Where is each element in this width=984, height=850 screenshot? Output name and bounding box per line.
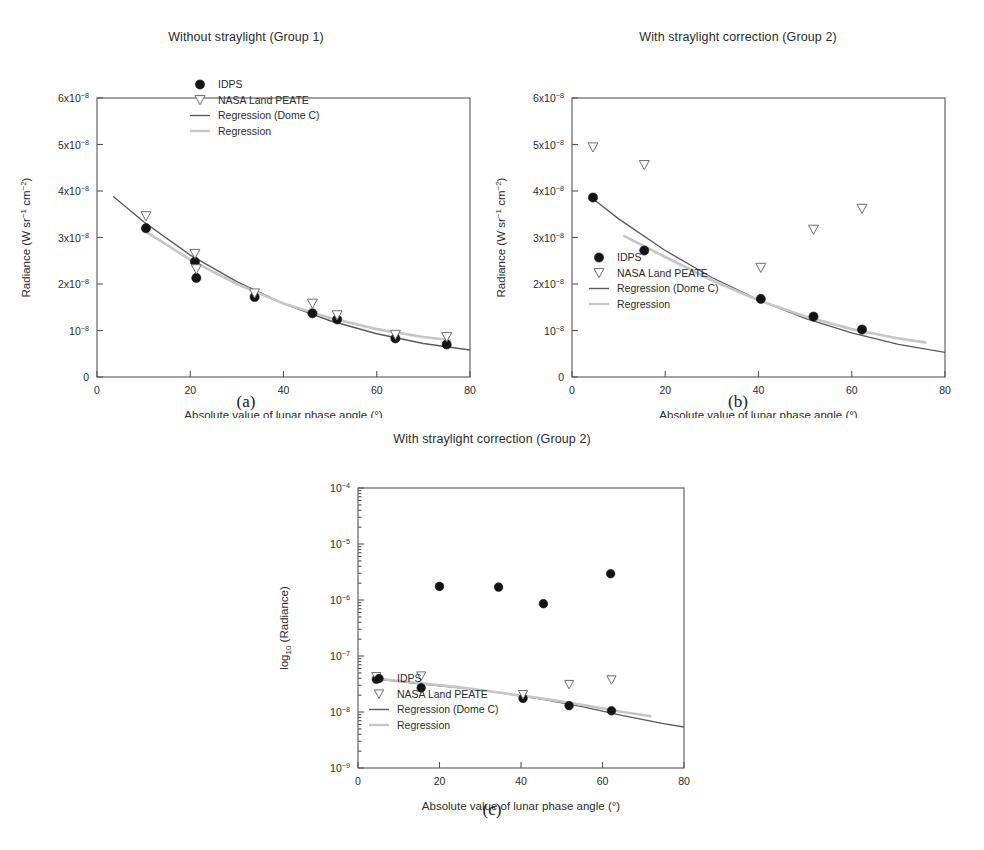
axis-tick-label: 5x10−8: [58, 138, 89, 151]
axis-tick-label: 0: [558, 371, 564, 383]
legend-marker-idps: [594, 253, 603, 262]
legend-label-reg: Regression: [617, 298, 670, 310]
data-point-nasa-land-peate: [809, 225, 819, 234]
axis-tick-label: 4x10−8: [533, 184, 564, 197]
regression-dome-c-curve: [113, 197, 470, 350]
data-point-idps: [565, 701, 574, 710]
axis-tick-label: 0: [355, 775, 361, 787]
axis-tick-label: 4x10−8: [58, 184, 89, 197]
panel-b-plot: 010−82x10−83x10−84x10−85x10−86x10−802040…: [492, 48, 984, 418]
axis-tick-label: 10−7: [330, 649, 350, 662]
panel-c-plot: 10−910−810−710−610−510−4020406080Absolut…: [246, 450, 738, 825]
legend-marker-nasa: [374, 690, 383, 698]
data-point-idps: [141, 224, 150, 233]
legend-marker-idps: [375, 674, 384, 683]
panel-c-caption: (c): [246, 800, 738, 820]
legend-marker-nasa: [195, 96, 205, 105]
legend-marker-idps: [195, 80, 204, 89]
axis-tick-label: 6x10−8: [58, 91, 89, 104]
data-point-nasa-land-peate: [607, 676, 616, 684]
legend-label-dome: Regression (Dome C): [397, 703, 499, 715]
legend: IDPSNASA Land PEATERegression (Dome C)Re…: [190, 78, 320, 137]
data-point-idps: [857, 325, 866, 334]
axis-tick-label: 60: [597, 775, 609, 787]
y-axis-label: Radiance (W sr−1 cm−2): [19, 177, 32, 297]
axis-tick-label: 10−8: [69, 324, 89, 337]
data-point-nasa-land-peate: [307, 299, 317, 308]
data-point-nasa-land-peate: [857, 204, 867, 213]
panel-a-caption: (a): [0, 392, 492, 412]
data-point-idps: [308, 309, 317, 318]
panel-c: With straylight correction (Group 2) 10−…: [246, 432, 738, 832]
panel-a-title: Without straylight (Group 1): [0, 30, 492, 44]
data-point-idps: [607, 707, 616, 716]
panel-b-title: With straylight correction (Group 2): [492, 30, 984, 44]
axis-tick-label: 6x10−8: [533, 91, 564, 104]
data-point-nasa-land-peate: [639, 161, 649, 170]
legend-label-nasa: NASA Land PEATE: [617, 267, 708, 279]
panel-a-plot: 010−82x10−83x10−84x10−85x10−86x10−802040…: [0, 48, 492, 418]
panel-a: Without straylight (Group 1) 010−82x10−8…: [0, 30, 492, 420]
panel-b-caption: (b): [492, 392, 984, 412]
data-point-idps: [756, 294, 765, 303]
data-point-nasa-land-peate: [190, 249, 200, 258]
legend-label-reg: Regression: [218, 125, 271, 137]
axis-tick-label: 20: [434, 775, 446, 787]
legend-label-nasa: NASA Land PEATE: [397, 688, 488, 700]
data-point-nasa-land-peate: [564, 680, 573, 688]
regression-curve: [144, 230, 452, 340]
panel-b: With straylight correction (Group 2) 010…: [492, 30, 984, 420]
data-point-idps: [606, 569, 615, 578]
legend: IDPSNASA Land PEATERegression (Dome C)Re…: [589, 251, 719, 310]
panel-c-title: With straylight correction (Group 2): [246, 432, 738, 446]
legend-label-idps: IDPS: [617, 251, 642, 263]
axis-tick-label: 10−9: [330, 761, 350, 774]
y-axis-label: log10 (Radiance): [278, 586, 293, 670]
legend-marker-nasa: [594, 269, 604, 278]
axis-tick-label: 10−8: [330, 705, 350, 718]
axis-tick-label: 0: [83, 371, 89, 383]
axis-tick-label: 40: [515, 775, 527, 787]
axis-tick-label: 2x10−8: [58, 277, 89, 290]
data-point-idps: [588, 193, 597, 202]
axis-tick-label: 3x10−8: [533, 231, 564, 244]
y-axis-label: Radiance (W sr−1 cm−2): [494, 177, 507, 297]
legend-label-dome: Regression (Dome C): [617, 282, 719, 294]
data-point-idps: [809, 312, 818, 321]
axis-tick-label: 10−6: [330, 593, 350, 606]
data-point-idps: [539, 599, 548, 608]
axis-tick-label: 10−5: [330, 537, 350, 550]
data-point-nasa-land-peate: [191, 265, 201, 274]
data-point-idps: [494, 583, 503, 592]
axis-tick-label: 2x10−8: [533, 277, 564, 290]
axis-tick-label: 10−4: [330, 481, 350, 494]
axis-tick-label: 3x10−8: [58, 231, 89, 244]
data-point-nasa-land-peate: [141, 212, 151, 221]
data-point-nasa-land-peate: [588, 143, 598, 152]
axis-tick-label: 10−8: [544, 324, 564, 337]
legend-label-idps: IDPS: [397, 672, 422, 684]
data-point-nasa-land-peate: [756, 263, 766, 272]
axis-tick-label: 80: [678, 775, 690, 787]
axis-tick-label: 5x10−8: [533, 138, 564, 151]
data-point-idps: [435, 582, 444, 591]
legend-label-dome: Regression (Dome C): [218, 109, 320, 121]
legend-label-nasa: NASA Land PEATE: [218, 94, 309, 106]
legend-label-idps: IDPS: [218, 78, 243, 90]
legend-label-reg: Regression: [397, 719, 450, 731]
